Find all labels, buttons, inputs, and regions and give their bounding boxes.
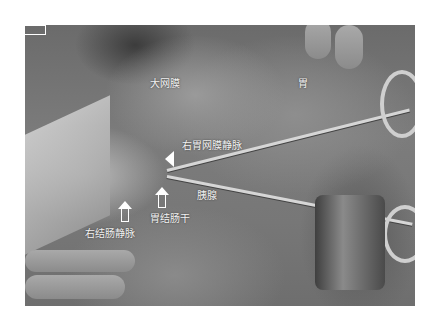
hand-finger-top [305,25,331,59]
label-pancreas: 胰腺 [197,187,217,202]
forceps-ring-lower [383,205,415,263]
surgical-photo: 大网膜 胃 右胃网膜静脉 胰腺 胃结肠干 右结肠静脉 [25,25,415,306]
arrow-left-icon [165,151,174,167]
label-right-gastroepiploic-vein: 右胃网膜静脉 [182,137,242,152]
label-gastrocolic-trunk: 胃结肠干 [150,210,190,225]
forceps-ring-upper [380,70,415,138]
label-greater-omentum: 大网膜 [150,75,180,90]
hand-finger-top-2 [335,25,363,69]
hand-finger-bottom-2 [25,275,125,299]
hand-finger-bottom [25,250,135,272]
label-stomach: 胃 [298,75,308,90]
arrow-left-shaft [25,25,46,35]
arrow-up-shaft-trunk [158,195,166,208]
arrow-up-shaft-colic [121,209,129,222]
arrow-up-icon-colic [118,201,132,209]
label-right-colic-vein: 右结肠静脉 [85,225,135,240]
arrow-up-icon-trunk [155,187,169,195]
steel-bowl [315,195,385,290]
